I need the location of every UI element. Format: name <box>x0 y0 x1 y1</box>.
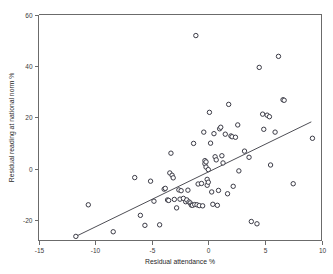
scatter-point <box>291 182 295 186</box>
scatter-point <box>255 222 259 226</box>
scatter-point <box>242 149 246 153</box>
scatter-point <box>247 155 251 159</box>
scatter-point <box>86 203 90 207</box>
data-points <box>74 33 315 238</box>
scatter-point <box>260 112 264 116</box>
scatter-point <box>212 131 216 135</box>
regression-fit-line <box>76 122 311 237</box>
scatter-point <box>207 110 211 114</box>
scatter-point <box>214 158 218 162</box>
scatter-point <box>249 219 253 223</box>
scatter-point <box>236 123 240 127</box>
scatter-point <box>206 167 210 171</box>
y-axis-title: Residual reading at national norm % <box>8 73 16 183</box>
scatter-point <box>268 163 272 167</box>
scatter-point <box>111 230 115 234</box>
scatter-point <box>262 127 266 131</box>
scatter-point <box>143 223 147 227</box>
scatter-point <box>202 130 206 134</box>
scatter-point <box>226 102 230 106</box>
scatter-point <box>237 169 241 173</box>
scatter-point <box>148 179 152 183</box>
scatter-point <box>169 151 173 155</box>
scatter-point <box>172 197 176 201</box>
axis-ticks: -15-10-50510-200204060 <box>23 12 326 254</box>
scatter-point <box>174 206 178 210</box>
scatter-plot-figure: -15-10-50510-200204060 Residual attendan… <box>0 0 333 274</box>
scatter-point <box>157 223 161 227</box>
scatter-point <box>273 130 277 134</box>
scatter-point <box>233 135 237 139</box>
scatter-point <box>194 33 198 37</box>
scatter-point <box>133 175 137 179</box>
scatter-point <box>221 161 225 165</box>
regression-line <box>76 122 311 237</box>
scatter-point <box>171 176 175 180</box>
scatter-point <box>257 65 261 69</box>
axis-titles: Residual attendance %Residual reading at… <box>8 73 215 265</box>
x-tick-label: -10 <box>91 247 101 254</box>
x-tick-label: 10 <box>319 247 327 254</box>
scatter-point <box>206 180 210 184</box>
x-tick-label: 5 <box>264 247 268 254</box>
scatter-point <box>179 188 183 192</box>
scatter-point <box>310 136 314 140</box>
x-tick-label: 0 <box>207 247 211 254</box>
y-tick-label: 60 <box>25 12 33 19</box>
scatter-point <box>163 186 167 190</box>
scatter-point <box>208 141 212 145</box>
scatter-point <box>215 203 219 207</box>
scatter-point <box>282 98 286 102</box>
scatter-point <box>209 190 213 194</box>
y-tick-label: -20 <box>23 217 33 224</box>
y-tick-label: 40 <box>25 63 33 70</box>
scatter-point <box>267 115 271 119</box>
scatter-point <box>216 188 220 192</box>
x-axis-title: Residual attendance % <box>145 258 215 265</box>
scatter-point <box>152 199 156 203</box>
x-tick-label: -5 <box>150 247 156 254</box>
plot-canvas: -15-10-50510-200204060 Residual attendan… <box>0 0 333 274</box>
scatter-point <box>204 160 208 164</box>
scatter-point <box>74 234 78 238</box>
scatter-point <box>225 192 229 196</box>
scatter-point <box>220 154 224 158</box>
scatter-point <box>186 188 190 192</box>
scatter-point <box>223 132 227 136</box>
scatter-point <box>276 54 280 58</box>
y-tick-label: 20 <box>25 114 33 121</box>
scatter-point <box>211 202 215 206</box>
scatter-point <box>138 213 142 217</box>
scatter-point <box>219 125 223 129</box>
scatter-point <box>231 184 235 188</box>
y-tick-label: 0 <box>29 166 33 173</box>
scatter-point <box>200 204 204 208</box>
plot-axes <box>39 15 322 241</box>
scatter-point <box>166 198 170 202</box>
scatter-point <box>191 141 195 145</box>
x-tick-label: -15 <box>35 247 45 254</box>
scatter-point <box>199 181 203 185</box>
